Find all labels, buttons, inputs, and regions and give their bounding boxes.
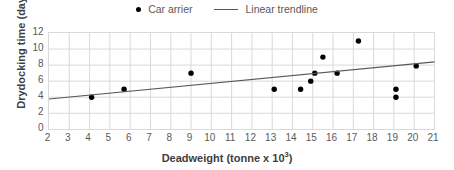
data-point-marker	[121, 86, 126, 91]
data-point-marker	[308, 78, 313, 83]
data-point-marker	[320, 54, 325, 59]
x-axis-tick-label: 20	[403, 133, 423, 143]
x-axis-tick-label: 6	[119, 133, 139, 143]
x-axis-tick-label: 3	[58, 133, 78, 143]
legend-item-linear-trendline[interactable]: Linear trendline	[214, 3, 317, 15]
x-axis-tick-label: 19	[382, 133, 402, 143]
y-axis-tick-label: 0	[22, 123, 44, 133]
x-axis-title-main: Deadweight (tonne x 10	[162, 152, 285, 164]
x-axis-tick-label: 17	[342, 133, 362, 143]
chart-legend: Car arrier Linear trendline	[0, 3, 454, 15]
legend-label-linear-trendline: Linear trendline	[245, 3, 317, 15]
x-axis-tick-label: 8	[159, 133, 179, 143]
x-axis-tick-label: 13	[261, 133, 281, 143]
x-axis-tick-label: 18	[362, 133, 382, 143]
data-point-marker	[355, 38, 360, 43]
x-axis-tick-label: 2	[38, 133, 58, 143]
x-axis-title: Deadweight (tonne x 103)	[0, 150, 454, 164]
data-point-marker	[188, 70, 193, 75]
x-axis-tick-label: 21	[423, 133, 443, 143]
x-axis-tick-label: 5	[98, 133, 118, 143]
data-point-marker	[271, 86, 276, 91]
x-axis-tick-label: 10	[200, 133, 220, 143]
y-axis-title: Drydocking time (day)	[15, 0, 27, 119]
trendline	[49, 62, 435, 99]
data-point-marker	[297, 86, 302, 91]
x-axis-tick-label: 7	[139, 133, 159, 143]
x-axis-title-tail: )	[289, 152, 293, 164]
x-axis-tick-label: 9	[180, 133, 200, 143]
data-point-marker	[393, 86, 398, 91]
x-axis-tick-label: 16	[322, 133, 342, 143]
legend-marker-dot-icon	[136, 7, 141, 12]
x-axis-tick-label: 14	[281, 133, 301, 143]
data-point-marker	[393, 95, 398, 100]
legend-item-car-arrier[interactable]: Car arrier	[136, 3, 192, 15]
x-axis-tick-label: 12	[240, 133, 260, 143]
legend-marker-line-icon	[214, 9, 238, 10]
x-axis-tick-label: 4	[78, 133, 98, 143]
plot-svg	[49, 33, 435, 129]
x-axis-tick-label: 15	[301, 133, 321, 143]
x-axis-tick-label: 11	[220, 133, 240, 143]
plot-area	[48, 32, 436, 130]
chart-container: Car arrier Linear trendline 024681012234…	[0, 0, 454, 170]
legend-label-car-arrier: Car arrier	[148, 3, 192, 15]
